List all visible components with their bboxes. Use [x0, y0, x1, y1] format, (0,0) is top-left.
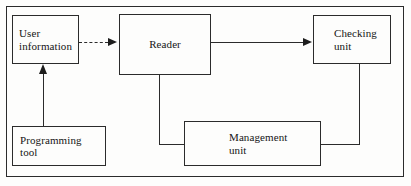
node-user-information-label: User information — [13, 27, 72, 52]
connector-programming-tool-to-user-information — [43, 72, 44, 126]
connector-reader-to-management-unit-vertical — [159, 75, 160, 144]
node-programming-tool: Programming tool — [12, 126, 106, 166]
node-checking-unit-label: Checking unit — [314, 27, 377, 52]
connector-reader-to-checking-unit — [211, 42, 303, 43]
arrowhead-user-information-to-reader — [108, 38, 117, 46]
connector-user-information-to-reader — [79, 42, 108, 43]
node-reader-label: Reader — [149, 38, 181, 51]
node-user-information: User information — [12, 15, 79, 64]
block-diagram-figure: User information Reader Checking unit Pr… — [0, 0, 411, 186]
node-management-unit: Management unit — [184, 121, 321, 166]
node-management-unit-label: Management unit — [185, 131, 287, 156]
arrowhead-programming-tool-to-user-information — [39, 64, 47, 74]
connector-reader-to-management-unit-horizontal — [159, 144, 185, 145]
connector-checking-unit-to-management-unit-vertical — [359, 64, 360, 144]
node-programming-tool-label: Programming tool — [13, 134, 82, 159]
arrowhead-reader-to-checking-unit — [303, 38, 312, 46]
node-checking-unit: Checking unit — [313, 15, 391, 64]
node-reader: Reader — [119, 14, 211, 75]
connector-checking-unit-to-management-unit-horizontal — [320, 144, 360, 145]
